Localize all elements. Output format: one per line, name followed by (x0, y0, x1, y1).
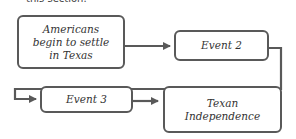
node-1-line-1: Americans (33, 23, 110, 36)
node-event-2: Event 2 (174, 30, 269, 61)
node-americans-settle: Americans begin to settle in Texas (17, 15, 125, 69)
node-2-label: Event 2 (201, 39, 242, 52)
node-4-line-1: Texan (185, 97, 260, 110)
node-4-line-2: Independence (185, 110, 260, 123)
node-3-label: Event 3 (66, 93, 107, 106)
node-1-line-2: begin to settle (33, 36, 110, 49)
node-texan-independence: Texan Independence (163, 86, 282, 133)
node-1-line-3: in Texas (33, 49, 110, 62)
node-event-3: Event 3 (40, 86, 133, 113)
